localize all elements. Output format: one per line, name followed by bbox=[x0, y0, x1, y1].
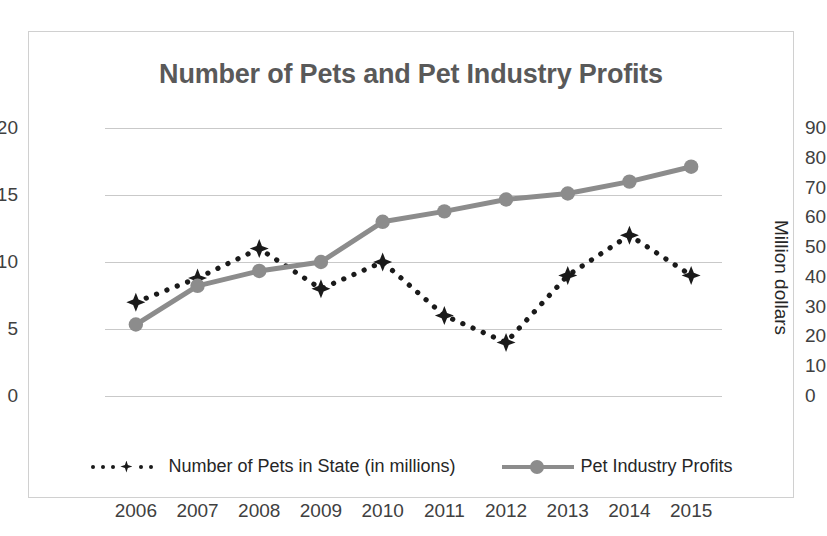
x-axis-label: 2009 bbox=[300, 500, 342, 522]
x-axis-label: 2013 bbox=[547, 500, 589, 522]
series-pets bbox=[126, 226, 700, 352]
x-axis-label: 2008 bbox=[238, 500, 280, 522]
series-profits bbox=[129, 160, 699, 332]
series-layer bbox=[105, 128, 722, 396]
secondary-y-axis-title: Million dollars bbox=[770, 220, 792, 335]
legend-item-profits[interactable]: Pet Industry Profits bbox=[502, 456, 733, 477]
y-axis-right-label: 30 bbox=[805, 296, 827, 318]
y-axis-right-label: 50 bbox=[805, 236, 827, 258]
chart-legend: Number of Pets in State (in millions) Pe… bbox=[29, 456, 793, 477]
y-axis-right-label: 90 bbox=[805, 117, 827, 139]
data-point-marker bbox=[314, 255, 328, 269]
plot-area: 05101520 0102030405060708090 20062007200… bbox=[105, 128, 722, 396]
x-axis-label: 2006 bbox=[115, 500, 157, 522]
data-point-marker bbox=[373, 253, 392, 272]
series-line bbox=[136, 167, 691, 325]
y-axis-right-label: 80 bbox=[805, 147, 827, 169]
y-axis-left-label: 15 bbox=[0, 184, 18, 206]
chart-title: Number of Pets and Pet Industry Profits bbox=[29, 59, 793, 90]
data-point-marker bbox=[437, 204, 451, 218]
data-point-marker bbox=[558, 266, 577, 285]
y-axis-right-label: 20 bbox=[805, 325, 827, 347]
legend-label-profits: Pet Industry Profits bbox=[581, 456, 733, 477]
y-axis-left-label: 5 bbox=[0, 318, 18, 340]
y-axis-right-label: 60 bbox=[805, 206, 827, 228]
data-point-marker bbox=[622, 174, 636, 188]
data-point-marker bbox=[435, 306, 454, 325]
chart-container: Number of Pets and Pet Industry Profits … bbox=[28, 31, 794, 498]
y-axis-left-label: 20 bbox=[0, 117, 18, 139]
y-axis-left-label: 0 bbox=[0, 385, 18, 407]
x-axis-label: 2012 bbox=[485, 500, 527, 522]
legend-label-pets: Number of Pets in State (in millions) bbox=[168, 456, 455, 477]
dotted-line-swatch-icon bbox=[89, 460, 161, 474]
y-axis-right-label: 40 bbox=[805, 266, 827, 288]
x-axis-label: 2015 bbox=[670, 500, 712, 522]
data-point-marker bbox=[684, 160, 698, 174]
solid-line-swatch-icon bbox=[502, 460, 574, 474]
x-axis-label: 2011 bbox=[424, 500, 465, 522]
data-point-marker bbox=[375, 215, 389, 229]
y-axis-right-label: 10 bbox=[805, 355, 827, 377]
x-axis-label: 2010 bbox=[362, 500, 404, 522]
data-point-marker bbox=[129, 317, 143, 331]
x-axis-label: 2014 bbox=[608, 500, 650, 522]
data-point-marker bbox=[499, 192, 513, 206]
legend-item-pets[interactable]: Number of Pets in State (in millions) bbox=[89, 456, 455, 477]
data-point-marker bbox=[190, 279, 204, 293]
y-axis-left-label: 10 bbox=[0, 251, 18, 273]
gridline bbox=[105, 396, 722, 397]
y-axis-right-label: 0 bbox=[805, 385, 827, 407]
data-point-marker bbox=[126, 293, 145, 312]
x-axis-label: 2007 bbox=[176, 500, 218, 522]
data-point-marker bbox=[252, 264, 266, 278]
y-axis-right-label: 70 bbox=[805, 177, 827, 199]
data-point-marker bbox=[561, 186, 575, 200]
series-line bbox=[136, 235, 691, 342]
